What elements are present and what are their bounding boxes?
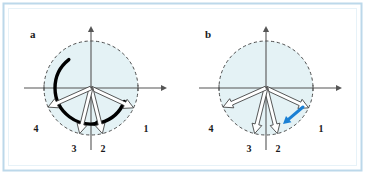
figure-root: 1234 a 1234 b: [0, 0, 365, 174]
figure-canvas: 1234 a 1234 b: [0, 0, 365, 174]
vector-label-2: 2: [101, 143, 106, 154]
vector-label-4: 4: [209, 123, 214, 134]
panel-a-letter: a: [30, 28, 36, 40]
vector-label-1: 1: [319, 123, 324, 134]
vector-label-2: 2: [276, 143, 281, 154]
panel-b-letter: b: [205, 28, 211, 40]
vector-label-4: 4: [34, 123, 39, 134]
vector-label-3: 3: [247, 143, 252, 154]
vector-label-3: 3: [72, 143, 77, 154]
vector-label-1: 1: [144, 123, 149, 134]
